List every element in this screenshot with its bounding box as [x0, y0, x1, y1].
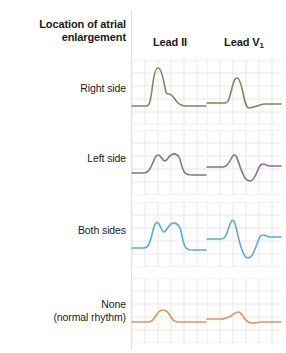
row-header-line-2: enlargement	[62, 31, 126, 43]
ecg-trace-left-side-lead-v1	[207, 130, 281, 195]
waveform-path-both-sides-lead-v1	[207, 202, 281, 267]
waveform-path-both-sides-lead-ii	[132, 202, 206, 267]
column-header-lead-v1-subscript: 1	[260, 41, 264, 50]
ecg-trace-right-side-lead-ii	[132, 60, 206, 125]
waveform-path-left-side-lead-v1	[207, 130, 281, 195]
ecg-trace-both-sides-lead-ii	[132, 202, 206, 267]
ecg-trace-both-sides-lead-v1	[207, 202, 281, 267]
waveform-path-none-normal-lead-ii	[132, 278, 206, 343]
row-label-left-side: Left side	[2, 152, 126, 165]
waveform-path-right-side-lead-ii	[132, 60, 206, 125]
row-label-right-side: Right side	[2, 82, 126, 95]
ecg-trace-right-side-lead-v1	[207, 60, 281, 125]
ecg-trace-left-side-lead-ii	[132, 130, 206, 195]
row-header-line-1: Location of atrial	[39, 18, 126, 30]
row-label-none-normal: None(normal rhythm)	[2, 298, 126, 324]
column-header-lead-v1-label: Lead V	[224, 36, 259, 48]
waveform-path-none-normal-lead-v1	[207, 278, 281, 343]
row-label-line-2: (normal rhythm)	[53, 311, 126, 323]
atrial-enlargement-ecg-figure: Location of atrial enlargement Lead II L…	[0, 0, 286, 353]
row-label-line-1: Left side	[87, 152, 126, 164]
ecg-trace-none-normal-lead-v1	[207, 278, 281, 343]
row-label-both-sides: Both sides	[2, 224, 126, 237]
ecg-trace-none-normal-lead-ii	[132, 278, 206, 343]
column-header-lead-v1: Lead V1	[207, 36, 281, 48]
column-header-lead-ii-label: Lead II	[153, 36, 187, 48]
row-label-line-1: None	[101, 298, 126, 310]
waveform-path-left-side-lead-ii	[132, 130, 206, 195]
row-label-line-1: Both sides	[78, 224, 126, 236]
waveform-path-right-side-lead-v1	[207, 60, 281, 125]
row-header-title: Location of atrial enlargement	[4, 18, 126, 44]
column-header-lead-ii: Lead II	[133, 36, 207, 48]
row-label-line-1: Right side	[80, 82, 126, 94]
